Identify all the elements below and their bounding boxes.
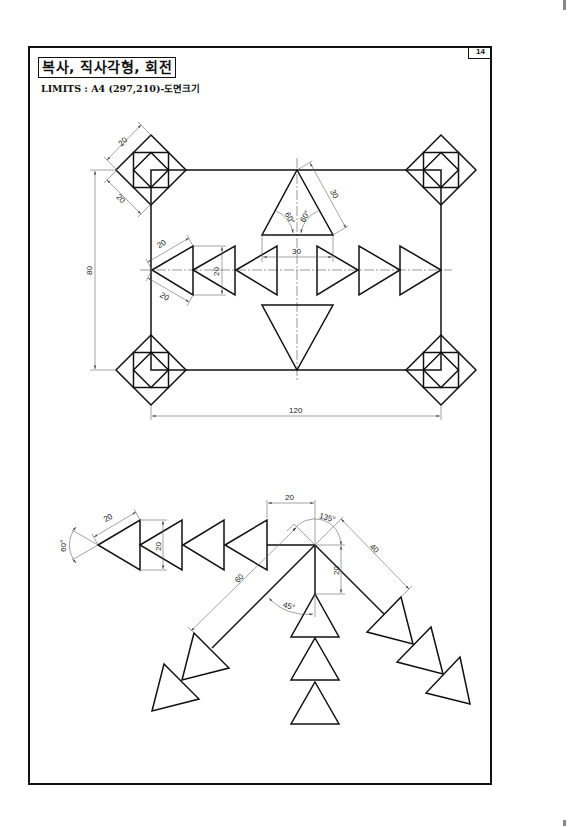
left-arm-triangle-2	[152, 664, 199, 711]
svg-text:20: 20	[158, 291, 171, 304]
chain-triangle-1	[98, 520, 140, 570]
chain-triangle-3	[183, 520, 224, 570]
svg-text:40: 40	[368, 542, 381, 555]
triangle-right-1	[317, 246, 358, 295]
arm-left-diagonal	[212, 545, 315, 648]
dim-vertical-20: 20	[315, 545, 345, 594]
vertical-triangle-3	[291, 682, 339, 724]
triangle-bottom	[262, 305, 333, 370]
triangle-top	[262, 170, 333, 235]
svg-text:45°: 45°	[282, 600, 296, 612]
svg-text:60°: 60°	[283, 211, 297, 226]
svg-text:20: 20	[332, 566, 341, 575]
triangle-right-2	[359, 246, 400, 295]
dim-chain-tip-angle: 60°	[59, 527, 98, 563]
dim-chain-tri-side: 20	[92, 509, 140, 545]
dim-tri-lower-side: 20	[146, 270, 193, 306]
triangle-left-3	[236, 246, 277, 295]
dim-chain-tri-height: 20	[140, 520, 167, 570]
arm-right-diagonal	[315, 545, 384, 614]
dim-square-lower: 20	[104, 170, 151, 217]
dim-offset-20: 20	[267, 493, 315, 545]
svg-text:20: 20	[212, 267, 221, 276]
svg-text:60°: 60°	[298, 209, 312, 224]
svg-text:135°: 135°	[318, 511, 336, 524]
svg-text:20: 20	[117, 135, 130, 148]
svg-text:20: 20	[114, 192, 127, 205]
top-figure: 20 20 80 120 20	[85, 122, 476, 420]
svg-text:20: 20	[155, 238, 168, 251]
svg-text:20: 20	[102, 512, 115, 525]
dim-tri-upper-side: 20	[146, 235, 193, 270]
bottom-figure: 20 20 60° 20 135°	[59, 493, 470, 724]
svg-text:60°: 60°	[59, 540, 68, 552]
right-arm-triangle-3	[426, 657, 470, 704]
dim-square-upper: 20	[104, 122, 151, 170]
right-arm-triangle-2	[397, 627, 443, 674]
dim-left-arm-60: 60	[188, 524, 296, 633]
left-arm-triangle-1	[182, 633, 229, 680]
vertical-triangle-2	[291, 638, 339, 680]
svg-text:20: 20	[285, 493, 294, 502]
dim-angle-135: 135°	[293, 511, 341, 545]
triangle-left-1	[152, 246, 193, 295]
dim-width-120: 120	[151, 405, 441, 420]
dim-right-arm-40: 40	[336, 517, 412, 597]
svg-text:30: 30	[292, 247, 301, 256]
svg-text:120: 120	[289, 406, 303, 415]
triangle-right-3	[400, 246, 441, 295]
dim-height-80: 80	[85, 170, 115, 370]
svg-text:60: 60	[233, 572, 246, 585]
cad-drawing: 20 20 80 120 20	[0, 0, 569, 827]
svg-text:20: 20	[154, 542, 163, 551]
svg-text:80: 80	[85, 266, 94, 275]
